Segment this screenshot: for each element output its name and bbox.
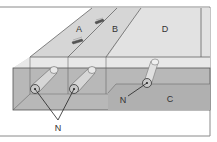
- label-n-left: N: [55, 123, 62, 133]
- label-d: D: [162, 24, 169, 34]
- joinery-diagram: A B D C N N: [0, 0, 217, 142]
- label-b: B: [112, 24, 118, 34]
- label-c: C: [167, 94, 174, 104]
- label-n-right: N: [120, 95, 127, 105]
- label-a: A: [76, 24, 82, 34]
- edge-strip: [13, 57, 210, 68]
- diagram-canvas: A B D C N N: [0, 0, 217, 142]
